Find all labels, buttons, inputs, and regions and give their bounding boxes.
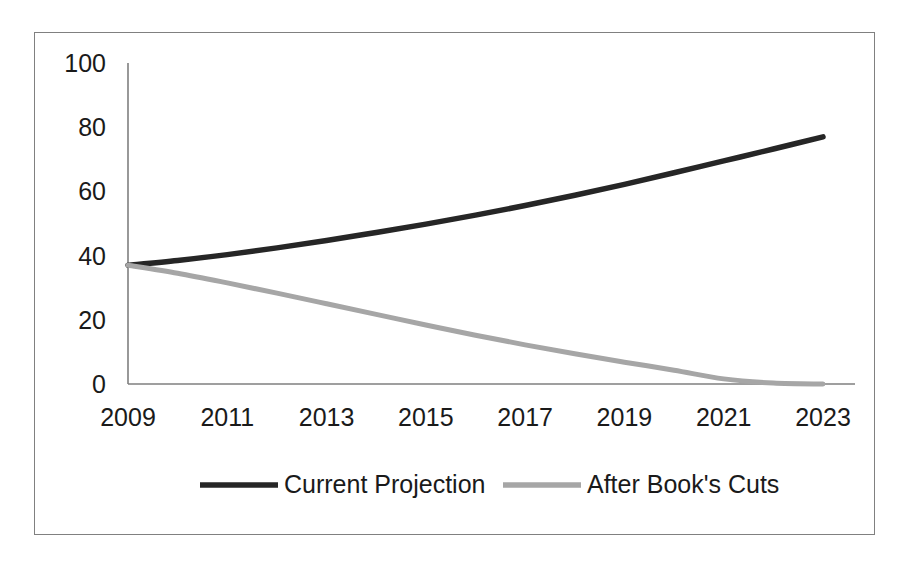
legend-label-1: Current Projection [284,470,485,498]
y-axis-tick-labels: 100806040200 [64,49,106,398]
chart-legend: Current ProjectionAfter Book's Cuts [200,470,779,498]
x-axis-tick-label: 2021 [696,403,752,431]
x-axis-tick-label: 2013 [299,403,355,431]
x-axis-tick-label: 2017 [497,403,553,431]
x-axis-tick-label: 2023 [795,403,851,431]
x-axis-tick-label: 2009 [100,403,156,431]
legend-label-2: After Book's Cuts [587,470,779,498]
line-chart: 100806040200 200920112013201520172019202… [35,33,876,536]
y-axis-tick-label: 100 [64,49,106,77]
y-axis-tick-label: 0 [92,370,106,398]
y-axis-tick-label: 60 [78,177,106,205]
series-line-1 [128,137,823,265]
x-axis-tick-label: 2011 [200,403,254,431]
y-axis-tick-label: 40 [78,242,106,270]
series-group [128,137,823,384]
series-line-2 [128,265,823,384]
x-axis-tick-label: 2019 [597,403,653,431]
y-axis-tick-label: 80 [78,113,106,141]
chart-frame: 100806040200 200920112013201520172019202… [34,32,875,535]
x-axis-tick-label: 2015 [398,403,454,431]
x-axis-tick-labels: 20092011201320152017201920212023 [100,403,851,431]
y-axis-tick-label: 20 [78,306,106,334]
